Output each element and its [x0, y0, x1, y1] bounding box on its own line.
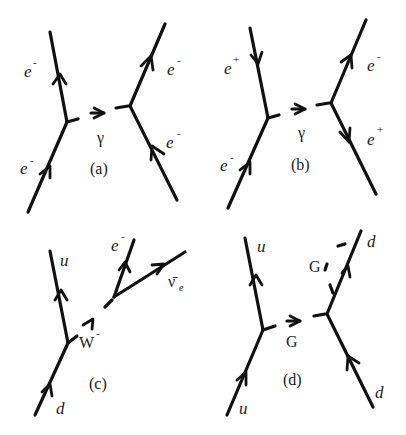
photon-segment	[317, 103, 329, 105]
label-d: d	[367, 232, 376, 251]
label-sup: +	[233, 53, 239, 65]
label-d: d	[375, 383, 384, 402]
label-sup: -	[177, 127, 181, 139]
diagram-a: e - e - e - e - γ (a)	[20, 24, 181, 212]
label-sup: -	[230, 151, 234, 163]
quark-line-d-bottom	[327, 314, 373, 407]
label-u: u	[60, 251, 69, 270]
label-e: e	[166, 133, 174, 152]
emitted-gluon-segment	[325, 264, 327, 270]
label-sub: e	[179, 282, 184, 293]
label-e: e	[367, 130, 375, 149]
label-e: e	[220, 156, 228, 175]
label-e: e	[224, 59, 232, 78]
caption-d: (d)	[283, 371, 302, 389]
label-e: e	[367, 56, 375, 75]
caption-c: (c)	[89, 375, 107, 393]
label-e: e	[167, 60, 175, 79]
w-segment	[105, 300, 112, 307]
electron-line-right-top	[331, 20, 366, 103]
emitted-gluon-label: G	[309, 258, 321, 275]
label-sup: -	[377, 50, 381, 62]
photon-label: γ	[297, 124, 305, 142]
vertex-stub-left	[268, 115, 279, 118]
emitted-gluon-segment	[330, 285, 333, 293]
diagram-b: e + e - e - e + γ (b)	[220, 20, 383, 208]
label-sup: +	[377, 123, 383, 135]
electron-line-right-bottom	[130, 106, 177, 200]
label-e: e	[111, 236, 119, 255]
electron-line-right-top	[130, 24, 165, 106]
w-arrow-icon	[83, 319, 93, 329]
gluon-segment	[314, 314, 325, 316]
feynman-diagrams-figure: e - e - e - e - γ (a) e + e - e - e + γ …	[0, 0, 406, 435]
photon-segment	[116, 106, 128, 108]
vertex-stub-left	[67, 119, 78, 122]
label-e: e	[24, 62, 32, 81]
label-sup: -	[33, 56, 37, 68]
vertex-stub-left	[263, 326, 275, 330]
diagram-d: u u d d G G (d)	[227, 231, 384, 418]
positron-line-left-top	[250, 28, 268, 118]
caption-b: (b)	[291, 156, 310, 174]
gluon-label: G	[286, 333, 298, 350]
label-sup: -	[96, 327, 100, 339]
label-antineutrino: ν̄	[168, 273, 178, 290]
label-d: d	[56, 399, 65, 418]
label-sup: -	[121, 230, 125, 242]
label-u: u	[239, 399, 248, 418]
vertex-stub	[68, 336, 77, 343]
w-boson-label: W	[79, 334, 95, 351]
label-u: u	[257, 237, 266, 256]
label-sup: -	[177, 54, 181, 66]
emitted-gluon-segment	[338, 244, 345, 246]
photon-label: γ	[96, 129, 104, 147]
caption-a: (a)	[90, 160, 108, 178]
diagram-c: u d e - ν̄ e W - (c)	[35, 230, 185, 418]
label-e: e	[20, 159, 28, 178]
label-sup: -	[30, 154, 34, 166]
